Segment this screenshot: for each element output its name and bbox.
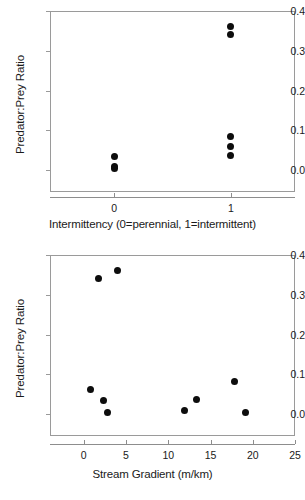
y-tick-label: 0.2	[263, 86, 305, 97]
data-point	[227, 152, 234, 159]
plot-frame	[50, 255, 295, 436]
y-tick-label: 0.3	[263, 46, 305, 57]
x-axis-line	[50, 197, 295, 198]
x-tick-label: 15	[205, 450, 217, 461]
x-tick-label: 0	[81, 450, 87, 461]
x-tick-mark	[231, 193, 232, 197]
y-tick-label: 0.0	[263, 409, 305, 420]
x-tick-mark	[168, 440, 169, 444]
y-tick-label: 0.4	[263, 250, 305, 261]
x-tick-mark	[114, 193, 115, 197]
data-point	[95, 275, 102, 282]
x-tick-label: 20	[247, 450, 259, 461]
x-tick-mark	[84, 440, 85, 444]
y-tick-mark	[46, 255, 50, 256]
data-point	[104, 409, 111, 416]
x-tick-label: 10	[162, 450, 174, 461]
data-point	[242, 409, 249, 416]
x-tick-label: 25	[289, 450, 301, 461]
y-tick-mark	[46, 414, 50, 415]
x-axis-line	[50, 444, 295, 445]
x-tick-mark	[253, 440, 254, 444]
y-tick-label: 0.4	[263, 6, 305, 17]
y-tick-label: 0.1	[263, 369, 305, 380]
y-tick-label: 0.1	[263, 125, 305, 136]
y-tick-mark	[46, 11, 50, 12]
y-tick-mark	[46, 130, 50, 131]
data-point	[231, 378, 238, 385]
plot-frame	[50, 11, 295, 192]
y-tick-label: 0.2	[263, 330, 305, 341]
data-point	[111, 165, 118, 172]
x-tick-mark	[126, 440, 127, 444]
x-tick-label: 5	[123, 450, 129, 461]
scatter-panel-intermittency: Predator:Prey Ratio 0.00.10.20.30.4 01 I…	[0, 0, 305, 238]
y-axis-label: Predator:Prey Ratio	[14, 54, 26, 153]
y-tick-label: 0.3	[263, 290, 305, 301]
x-axis-label: Intermittency (0=perennial, 1=intermitte…	[0, 218, 305, 230]
y-tick-mark	[46, 335, 50, 336]
data-point	[193, 396, 200, 403]
data-point	[100, 397, 107, 404]
y-tick-mark	[46, 295, 50, 296]
y-tick-mark	[46, 51, 50, 52]
x-tick-mark	[295, 440, 296, 444]
y-tick-mark	[46, 91, 50, 92]
x-axis-label: Stream Gradient (m/km)	[0, 468, 305, 480]
x-tick-label: 1	[228, 203, 234, 214]
x-tick-label: 0	[111, 203, 117, 214]
scatter-panel-gradient: Predator:Prey Ratio 0.00.10.20.30.4 0510…	[0, 244, 305, 500]
y-axis-label: Predator:Prey Ratio	[14, 298, 26, 397]
y-tick-mark	[46, 170, 50, 171]
y-tick-label: 0.0	[263, 165, 305, 176]
x-tick-mark	[211, 440, 212, 444]
y-tick-mark	[46, 374, 50, 375]
